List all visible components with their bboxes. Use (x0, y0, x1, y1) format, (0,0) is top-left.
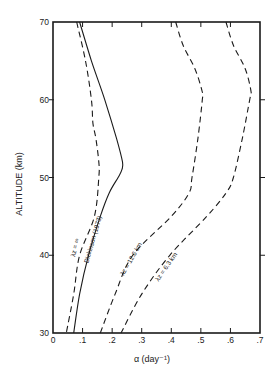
y-axis-ticks: 3040506070 (40, 17, 265, 338)
x-axis-title: α (day⁻¹) (134, 354, 170, 364)
curves (66, 22, 251, 333)
chart: 0.1.2.3.4.5.6.7 3040506070 α (day⁻¹) ALT… (0, 0, 277, 377)
y-tick-label: 70 (40, 17, 50, 27)
plot-border (53, 22, 260, 333)
y-tick-label: 30 (40, 328, 50, 338)
y-axis-title: ALTITUDE (km) (14, 152, 24, 215)
plot-frame (53, 22, 260, 333)
y-tick-label: 60 (40, 95, 50, 105)
curve--z-12-6-km (100, 22, 203, 333)
label-lambda-infinity: λz = ∞ (69, 237, 80, 257)
x-tick-label: .7 (256, 335, 263, 345)
x-tick-label: .6 (227, 335, 234, 345)
x-tick-label: .5 (197, 335, 204, 345)
label-lambda-6-3km: λz = 6.3 km (154, 251, 179, 282)
x-tick-label: .4 (168, 335, 175, 345)
curve-dickinson-1973- (74, 22, 123, 333)
x-tick-label: .2 (109, 335, 116, 345)
x-tick-label: 0 (51, 335, 56, 345)
x-axis-ticks: 0.1.2.3.4.5.6.7 (51, 22, 264, 345)
label-lambda-12-6km: λz = 12.6 km (119, 241, 144, 277)
y-tick-label: 40 (40, 250, 50, 260)
x-tick-label: .1 (79, 335, 86, 345)
x-tick-label: .3 (138, 335, 145, 345)
curve--z-6-3-km (121, 22, 251, 333)
y-tick-label: 50 (40, 173, 50, 183)
